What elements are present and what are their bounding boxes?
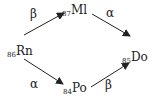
node-ml: 87Ml	[62, 4, 87, 20]
atomic-number: 86	[7, 51, 16, 59]
edge-label-beta-bottom: β	[105, 79, 112, 91]
edge-label-alpha-top: α	[106, 7, 114, 19]
node-do: 85Do	[122, 51, 148, 67]
atomic-number: 84	[63, 88, 72, 96]
atomic-number: 87	[62, 10, 71, 18]
edge-label-alpha-bottom: α	[30, 78, 38, 90]
node-po: 84Po	[63, 82, 87, 98]
element-symbol: Ml	[71, 3, 87, 17]
element-symbol: Do	[131, 50, 148, 64]
atomic-number: 85	[122, 57, 131, 65]
edge-label-beta-top: β	[30, 8, 37, 20]
element-symbol: Po	[72, 81, 87, 95]
node-rn: 86Rn	[7, 45, 33, 61]
element-symbol: Rn	[16, 44, 33, 58]
